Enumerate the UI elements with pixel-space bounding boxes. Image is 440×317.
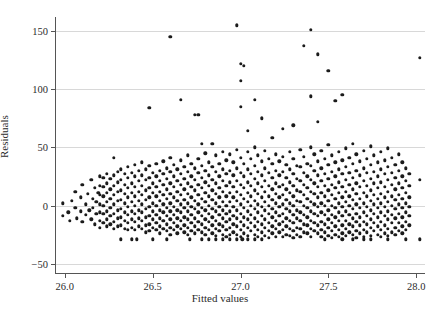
data-point [404,167,407,170]
data-point [112,227,115,230]
data-point [172,175,175,178]
data-point [147,176,150,179]
data-point [232,161,235,164]
data-point [253,164,256,167]
data-point [386,165,389,168]
data-point [351,217,354,220]
data-point [179,172,182,175]
data-point [140,161,143,164]
data-point [151,171,154,174]
data-point [316,160,319,163]
gridline-y [56,31,425,32]
data-point [119,198,122,201]
data-point [355,212,358,215]
data-point [316,214,319,217]
data-point [292,213,295,216]
data-point [337,228,340,231]
data-point [183,188,186,191]
data-point [81,220,84,223]
data-point [74,206,77,209]
data-point [119,168,122,171]
x-tick-mark [153,273,154,278]
data-point [386,218,389,221]
data-point [147,196,150,199]
data-point [200,176,203,179]
data-point [165,206,168,209]
data-point [341,93,344,96]
data-point [214,201,217,204]
x-tick-label: 27.0 [231,281,249,292]
data-point [179,219,182,222]
data-point [383,172,386,175]
data-point [197,113,200,116]
data-point [221,190,224,193]
data-point [242,64,245,67]
data-point [292,221,295,224]
data-point [169,35,172,38]
data-point [126,205,129,208]
data-point [263,208,266,211]
data-point [116,170,119,173]
data-point [383,214,386,217]
data-point [123,183,126,186]
data-point [383,224,386,227]
data-point [144,198,147,201]
data-point [204,233,207,236]
data-point [235,148,238,151]
data-point [334,197,337,200]
data-point [242,206,245,209]
data-point [344,210,347,213]
data-point [400,161,403,164]
data-point [207,174,210,177]
data-point [274,169,277,172]
data-point [207,161,210,164]
data-point [397,221,400,224]
data-point [133,212,136,215]
data-point [274,201,277,204]
data-point [165,238,168,241]
data-point [274,192,277,195]
data-point [281,155,284,158]
data-point [277,222,280,225]
data-point [400,186,403,189]
data-point [365,205,368,208]
data-point [130,191,133,194]
data-point [207,228,210,231]
data-point [284,163,287,166]
data-point [165,177,168,180]
data-point [105,200,108,203]
data-point [348,194,351,197]
data-point [102,176,105,179]
data-point [397,182,400,185]
data-point [365,184,368,187]
data-point [89,178,92,181]
data-point [316,185,319,188]
data-point [306,197,309,200]
data-point [242,175,245,178]
data-point [337,191,340,194]
data-point [102,194,105,197]
data-point [372,170,375,173]
data-point [260,238,263,241]
data-point [323,213,326,216]
x-tick-mark [328,273,329,278]
data-point [112,212,115,215]
data-point [393,198,396,201]
data-point [61,214,64,217]
data-point [239,193,242,196]
data-point [397,153,400,156]
data-point [151,191,154,194]
data-point [263,179,266,182]
data-point [154,228,157,231]
data-point [211,198,214,201]
data-point [362,179,365,182]
data-point [267,221,270,224]
data-point [292,204,295,207]
data-point [390,171,393,174]
data-point [383,158,386,161]
data-point [267,194,270,197]
data-point [270,176,273,179]
data-point [161,160,164,163]
data-point [393,163,396,166]
data-point [109,197,112,200]
